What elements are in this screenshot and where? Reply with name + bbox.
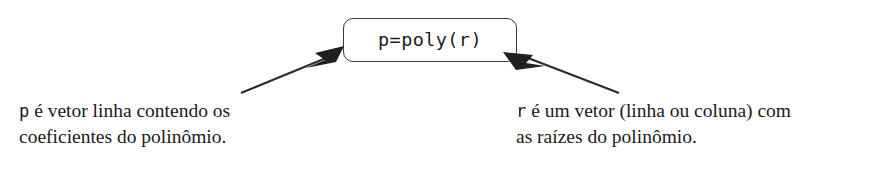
annotation-right-line1: r é um vetor (linha ou coluna) com <box>516 98 791 124</box>
annotation-left-variable: p <box>19 101 29 121</box>
code-box: p=poly(r) <box>343 18 517 62</box>
annotation-left-line1-text: é vetor linha contendo os <box>29 100 230 121</box>
arrow-left <box>241 46 344 93</box>
annotation-right: r é um vetor (linha ou coluna) com as ra… <box>516 98 791 149</box>
annotation-right-line1-text: é um vetor (linha ou coluna) com <box>526 100 791 121</box>
arrow-left-head <box>306 46 344 68</box>
annotation-left-line1: p é vetor linha contendo os <box>19 98 230 124</box>
arrow-right <box>503 52 619 93</box>
code-box-label: p=poly(r) <box>378 31 482 50</box>
diagram-canvas: p=poly(r) p é vetor linha contendo os co… <box>0 0 895 174</box>
annotation-right-variable: r <box>516 101 526 121</box>
annotation-left-line2: coeficientes do polinômio. <box>19 124 230 149</box>
annotation-right-line2: as raízes do polinômio. <box>516 124 791 149</box>
annotation-left: p é vetor linha contendo os coeficientes… <box>19 98 230 149</box>
arrow-left-shaft <box>241 56 331 93</box>
arrow-right-shaft <box>528 58 619 93</box>
